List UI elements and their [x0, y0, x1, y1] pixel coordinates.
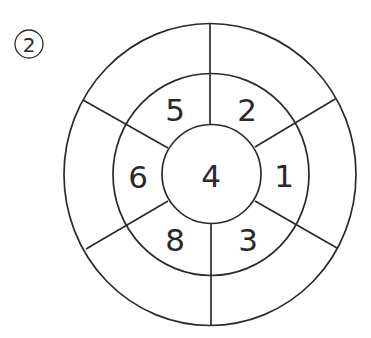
- problem-number: 2: [23, 33, 36, 57]
- spoke-upper-left: [83, 100, 168, 148]
- middle-ring-number-top-left: 5: [165, 92, 185, 128]
- center-number: 4: [201, 158, 221, 194]
- middle-ring-number-top-right: 2: [237, 92, 257, 128]
- problem-number-badge: 2: [15, 30, 43, 58]
- spoke-lower-right: [255, 201, 337, 248]
- spoke-lower-left: [86, 201, 168, 249]
- spoke-upper-right: [255, 99, 336, 148]
- middle-ring-number-right: 1: [274, 158, 294, 194]
- middle-ring-number-left: 6: [128, 159, 148, 195]
- middle-ring-number-bottom-right: 3: [238, 222, 258, 258]
- ring-puzzle-diagram: 2 4 5 2 1 3 8 6: [0, 0, 371, 338]
- middle-ring-number-bottom-left: 8: [165, 222, 185, 258]
